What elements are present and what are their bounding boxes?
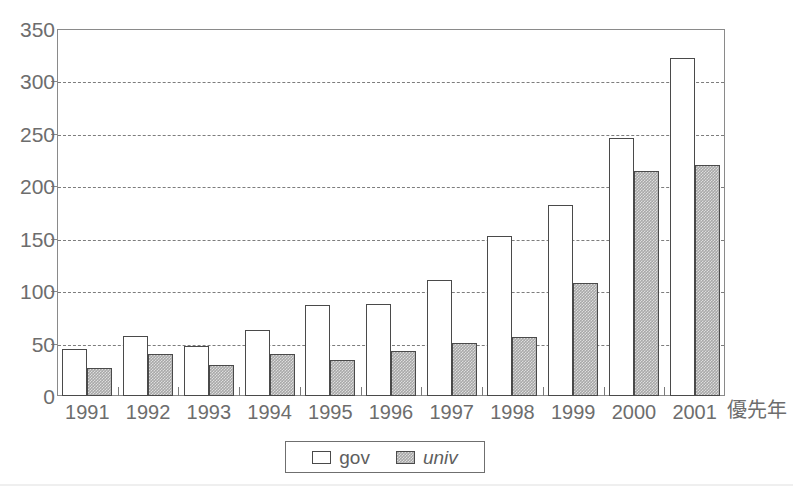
x-axis-label: 優先年 bbox=[727, 400, 787, 420]
legend-label-univ: univ bbox=[423, 448, 458, 467]
x-tick-label: 2001 bbox=[672, 402, 717, 422]
y-tick-label: 350 bbox=[5, 19, 55, 40]
x-tick-label: 1991 bbox=[65, 402, 110, 422]
gridline bbox=[58, 292, 724, 293]
gridline bbox=[58, 82, 724, 83]
x-tick-label: 1992 bbox=[126, 402, 171, 422]
x-tick-label: 1993 bbox=[187, 402, 232, 422]
x-tick-label: 1996 bbox=[369, 402, 414, 422]
gridline bbox=[58, 345, 724, 346]
legend-label-gov: gov bbox=[339, 448, 370, 467]
x-tick-label: 1999 bbox=[551, 402, 596, 422]
legend-swatch-univ-icon bbox=[396, 451, 415, 464]
y-tick-label: 300 bbox=[5, 71, 55, 92]
gridline bbox=[58, 187, 724, 188]
gridline bbox=[58, 240, 724, 241]
legend-item-univ[interactable]: univ bbox=[396, 448, 458, 467]
x-tick-label: 1998 bbox=[490, 402, 535, 422]
y-tick-label: 100 bbox=[5, 281, 55, 302]
x-tick-label: 1995 bbox=[308, 402, 353, 422]
x-tick-label: 1997 bbox=[429, 402, 474, 422]
y-tick-label: 50 bbox=[5, 333, 55, 354]
x-tick-label: 1994 bbox=[247, 402, 292, 422]
gridline bbox=[58, 135, 724, 136]
y-tick-label: 200 bbox=[5, 176, 55, 197]
legend-item-gov[interactable]: gov bbox=[312, 448, 370, 467]
y-tick-label: 250 bbox=[5, 123, 55, 144]
x-tick-label: 2000 bbox=[612, 402, 657, 422]
legend-swatch-gov-icon bbox=[312, 451, 331, 464]
legend: gov univ bbox=[285, 441, 485, 473]
y-tick-label: 0 bbox=[5, 386, 55, 407]
bar-chart: 050100150200250300350 199119921993199419… bbox=[0, 0, 793, 486]
plot-area bbox=[57, 29, 725, 396]
y-tick-label: 150 bbox=[5, 228, 55, 249]
